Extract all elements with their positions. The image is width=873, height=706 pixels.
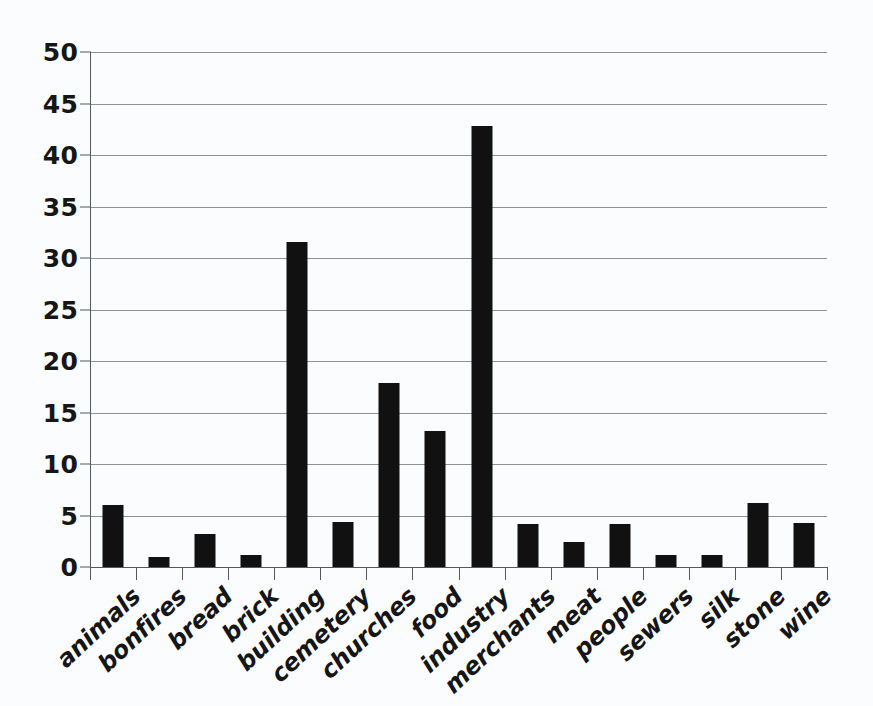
x-tick-mark bbox=[182, 567, 183, 580]
y-tick-label: 5 bbox=[60, 501, 78, 530]
y-tick-label: 20 bbox=[43, 347, 78, 376]
bar bbox=[609, 524, 630, 567]
x-axis-ticks bbox=[90, 567, 827, 581]
y-tick-label: 15 bbox=[43, 398, 78, 427]
y-tick-label: 35 bbox=[43, 192, 78, 221]
x-tick-mark bbox=[320, 567, 321, 580]
y-axis-ticks: 05101520253035404550 bbox=[0, 52, 78, 567]
x-tick-mark bbox=[459, 567, 460, 580]
bar bbox=[747, 503, 768, 567]
y-tick-label: 0 bbox=[60, 553, 78, 582]
bar bbox=[517, 524, 538, 567]
x-tick-mark bbox=[136, 567, 137, 580]
bar-chart: 05101520253035404550 animalsbonfiresbrea… bbox=[0, 0, 873, 706]
bar bbox=[103, 505, 124, 567]
bar bbox=[241, 555, 262, 567]
x-tick-mark bbox=[412, 567, 413, 580]
x-tick-mark bbox=[90, 567, 91, 580]
y-tick-label: 40 bbox=[43, 141, 78, 170]
bars-layer bbox=[90, 52, 827, 567]
bar bbox=[563, 542, 584, 567]
x-tick-mark bbox=[643, 567, 644, 580]
bar bbox=[379, 383, 400, 567]
x-tick-mark bbox=[551, 567, 552, 580]
bar bbox=[149, 557, 170, 567]
bar bbox=[701, 555, 722, 567]
x-tick-mark bbox=[781, 567, 782, 580]
y-tick-label: 10 bbox=[43, 450, 78, 479]
y-tick-label: 25 bbox=[43, 295, 78, 324]
x-tick-mark bbox=[735, 567, 736, 580]
x-tick-mark bbox=[689, 567, 690, 580]
bar bbox=[287, 242, 308, 567]
x-tick-mark bbox=[366, 567, 367, 580]
bar bbox=[793, 523, 814, 567]
y-tick-label: 45 bbox=[43, 89, 78, 118]
y-tick-label: 30 bbox=[43, 244, 78, 273]
x-tick-mark bbox=[274, 567, 275, 580]
bar bbox=[471, 126, 492, 567]
bar bbox=[333, 522, 354, 567]
x-axis-labels: animalsbonfiresbreadbrickbuildingcemeter… bbox=[90, 582, 827, 702]
bar bbox=[195, 534, 216, 567]
x-tick-mark bbox=[827, 567, 828, 580]
bar bbox=[425, 431, 446, 567]
x-tick-mark bbox=[505, 567, 506, 580]
y-tick-label: 50 bbox=[43, 38, 78, 67]
x-tick-mark bbox=[597, 567, 598, 580]
x-tick-mark bbox=[228, 567, 229, 580]
bar bbox=[655, 555, 676, 567]
